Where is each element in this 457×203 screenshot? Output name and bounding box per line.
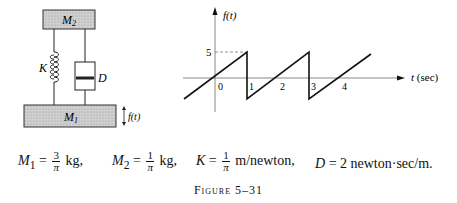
eq-k: K = 1π m/newton,	[196, 150, 295, 173]
x-axis-label: t (sec)	[411, 71, 439, 84]
spring-label: K	[38, 61, 48, 75]
sawtooth-chart: 5 0 1 2 3 4 f(t) t (sec)	[183, 7, 439, 112]
figure-caption: Figure 5–31	[0, 183, 457, 198]
y-axis-arrow-icon	[213, 7, 218, 15]
eq-m2: M2 = 1π kg,	[112, 150, 177, 173]
y-tick-5: 5	[206, 46, 212, 58]
spring-icon	[50, 29, 58, 105]
svg-text:0: 0	[218, 81, 223, 92]
svg-text:4: 4	[342, 81, 347, 92]
force-arrow-icon	[122, 106, 126, 126]
eq-d: D = 2 newton·sec/m.	[315, 156, 433, 172]
damper-label: D	[97, 71, 107, 85]
svg-text:2: 2	[280, 81, 285, 92]
eq-m1: M1 = 3π kg,	[18, 150, 83, 173]
svg-text:1: 1	[249, 81, 254, 92]
force-label: f(t)	[128, 111, 141, 123]
damper-icon	[75, 29, 95, 105]
svg-text:3: 3	[311, 81, 316, 92]
x-axis-arrow-icon	[397, 76, 405, 81]
y-axis-label: f(t)	[223, 9, 237, 22]
